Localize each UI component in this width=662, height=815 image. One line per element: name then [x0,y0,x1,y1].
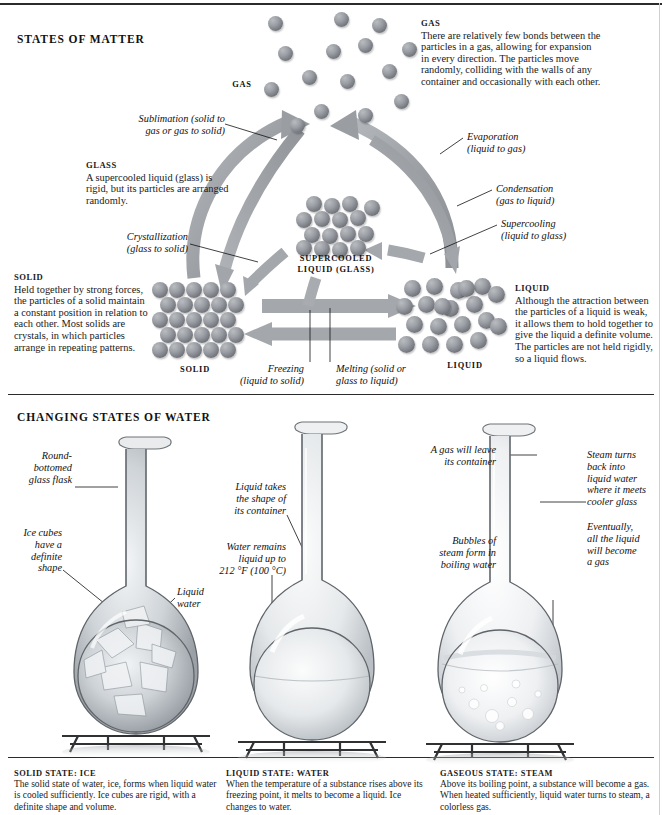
particle-sphere [290,118,305,133]
gas-description-body: There are relatively few bonds between t… [421,30,600,87]
particle-sphere [406,316,423,333]
particle-sphere [422,336,439,353]
freezing-label: Freezing (liquid to solid) [206,363,304,387]
caption-solid-title: SOLID STATE: ICE [14,768,219,779]
particle-sphere [160,327,176,343]
particle-sphere [152,282,168,298]
lower-divider-rule [8,757,654,758]
supercooled-to-solid-arrow [243,252,285,296]
states-of-matter-heading: STATES OF MATTER [17,33,145,45]
gas-particle-cluster [262,8,442,128]
water-remains-liquid-annotation: Water remains liquid up to 212 °F (100 °… [190,541,286,576]
leader-condensation [457,190,492,206]
liquid-description: LIQUID Although the attraction between t… [515,283,655,364]
caption-solid-state-ice: SOLID STATE: ICE The solid state of wate… [14,768,219,813]
leader-liquid-water [150,598,175,622]
middle-divider-rule [8,394,654,395]
liquid-description-body: Although the attraction between the part… [515,295,653,364]
particle-sphere [372,18,387,33]
particle-sphere [211,327,227,343]
caption-gaseous-title: GASEOUS STATE: STEAM [440,768,652,779]
particle-sphere [228,297,244,313]
particle-sphere [398,336,415,353]
glass-description: GLASS A supercooled liquid (glass) is ri… [86,160,236,206]
steam-turns-back-annotation: Steam turns back into liquid water where… [587,449,662,508]
changing-states-of-water-heading: CHANGING STATES OF WATER [17,411,211,423]
particle-sphere [340,74,355,89]
round-bottomed-flask-annotation: Round- bottomed glass flask [2,450,72,485]
gas-description-title: GAS [421,18,601,30]
particle-sphere [470,332,487,349]
particle-sphere [220,342,236,358]
freezing-arrow [244,322,396,346]
particle-sphere [211,297,227,313]
particle-sphere [302,70,317,85]
particle-sphere [404,280,421,297]
caption-gaseous-body: Above its boiling point, a substance wil… [440,779,650,811]
solid-description-body: Held together by strong forces, the part… [14,284,148,353]
particle-sphere [430,318,447,335]
leader-crystallization [190,244,258,262]
particle-sphere [402,42,417,57]
particle-sphere [194,297,210,313]
particle-sphere [488,286,505,303]
particle-sphere [203,282,219,298]
particle-sphere [418,296,435,313]
sublimation-label: Sublimation (solid to gas or gas to soli… [100,113,225,137]
leader-supercooling [430,225,497,254]
gas-description: GAS There are relatively few bonds betwe… [421,18,601,88]
particle-sphere [186,342,202,358]
evaporation-label: Evaporation (liquid to gas) [467,131,587,155]
particle-sphere [203,342,219,358]
particle-sphere [446,336,463,353]
particle-sphere [314,211,330,227]
leader-ice-cubes-shape [63,570,120,616]
caption-gaseous-state-steam: GASEOUS STATE: STEAM Above its boiling p… [440,768,652,813]
particle-sphere [340,226,356,242]
particle-sphere [177,327,193,343]
bubbles-of-steam-annotation: Bubbles of steam form in boiling water [398,535,496,570]
eventually-all-gas-annotation: Eventually, all the liquid will become a… [587,521,662,568]
particle-sphere [334,12,349,27]
top-rule [0,3,662,5]
particle-sphere [152,342,168,358]
condensation-label: Condensation (gas to liquid) [496,183,621,207]
particle-sphere [228,327,244,343]
leader-evaporation [440,138,463,154]
particle-sphere [396,298,413,315]
particle-sphere [350,210,366,226]
caption-liquid-body: When the temperature of a substance rise… [226,779,423,811]
solid-description: SOLID Held together by strong forces, th… [14,272,151,353]
particle-sphere [268,16,283,31]
solid-particle-cluster [152,282,248,360]
caption-liquid-title: LIQUID STATE: WATER [226,768,431,779]
glass-description-body: A supercooled liquid (glass) is rigid, b… [86,172,229,206]
particle-sphere [458,280,475,297]
crystallization-label: Crystallization (glass to solid) [60,231,188,255]
right-edge-rule [659,3,660,815]
particle-sphere [186,282,202,298]
particle-sphere [394,94,409,109]
liquid-description-title: LIQUID [515,283,655,295]
melting-label: Melting (solid or glass to liquid) [336,363,456,387]
particle-sphere [364,200,380,216]
caption-solid-body: The solid state of water, ice, forms whe… [14,779,217,811]
particle-sphere [169,312,185,328]
encyclopedia-page: STATES OF MATTER [0,0,662,815]
particle-sphere [466,296,483,313]
particle-sphere [186,312,202,328]
gas-will-leave-annotation: A gas will leave its container [386,444,496,468]
flask-steam [426,424,574,767]
particle-sphere [306,196,322,212]
flask-stand-water [238,742,386,758]
particle-sphere [358,38,373,53]
melting-arrow [262,278,416,318]
gas-cluster-label: GAS [212,80,272,89]
particle-sphere [296,212,312,228]
particle-sphere [169,342,185,358]
particle-sphere [177,297,193,313]
particle-sphere [160,297,176,313]
solid-description-title: SOLID [14,272,151,284]
particle-sphere [314,104,329,119]
particle-sphere [426,278,443,295]
